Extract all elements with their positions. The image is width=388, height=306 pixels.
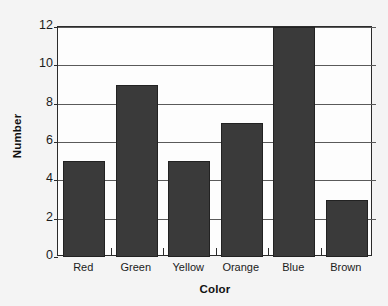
x-tick-mark: [268, 248, 269, 255]
x-tick-mark: [216, 248, 217, 255]
y-tick-label: 12: [29, 18, 53, 32]
x-tick-label: Blue: [267, 261, 320, 273]
bar-slot: [163, 27, 216, 257]
bar[interactable]: [221, 123, 263, 257]
x-tick-mark: [163, 248, 164, 255]
x-tick-label: Green: [110, 261, 163, 273]
bar[interactable]: [63, 161, 105, 257]
x-tick-mark: [111, 248, 112, 255]
bar-slot: [58, 27, 111, 257]
y-tick-label: 4: [29, 171, 53, 185]
x-tick-label: Red: [57, 261, 110, 273]
bar-slot: [321, 27, 374, 257]
x-tick-mark: [321, 248, 322, 255]
y-tick-mark: [54, 257, 58, 258]
bar-slot: [111, 27, 164, 257]
y-tick-label: 0: [29, 248, 53, 262]
x-axis-title: Color: [57, 283, 373, 295]
y-tick-label: 6: [29, 133, 53, 147]
bar-chart-figure: Number 024681012 RedGreenYellowOrangeBlu…: [0, 0, 388, 306]
x-tick-label: Yellow: [162, 261, 215, 273]
bar-series: [58, 27, 373, 257]
y-tick-label: 10: [29, 56, 53, 70]
bar[interactable]: [326, 200, 368, 258]
y-tick-label: 8: [29, 95, 53, 109]
bar[interactable]: [168, 161, 210, 257]
x-tick-label: Orange: [215, 261, 268, 273]
y-tick-label: 2: [29, 210, 53, 224]
bar-slot: [268, 27, 321, 257]
x-tick-label: Brown: [320, 261, 373, 273]
y-axis-title: Number: [11, 96, 23, 176]
plot-area: [57, 26, 372, 256]
bar[interactable]: [116, 85, 158, 258]
bar-slot: [216, 27, 269, 257]
bar[interactable]: [273, 27, 315, 257]
